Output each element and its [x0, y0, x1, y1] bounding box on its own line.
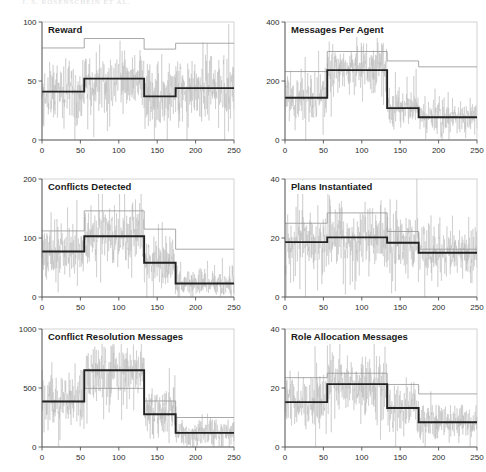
svg-text:200: 200	[23, 175, 37, 184]
svg-text:0: 0	[275, 443, 280, 452]
svg-text:200: 200	[189, 146, 203, 155]
svg-text:150: 150	[151, 453, 165, 462]
svg-text:0: 0	[40, 303, 45, 312]
svg-text:100: 100	[355, 453, 369, 462]
svg-text:200: 200	[432, 303, 446, 312]
svg-text:0: 0	[283, 146, 288, 155]
svg-text:0: 0	[40, 453, 45, 462]
svg-text:0: 0	[32, 136, 37, 145]
page-running-header: J. S. ROSENSCHEIN ET AL.	[22, 0, 222, 7]
svg-text:20: 20	[271, 384, 280, 393]
svg-text:150: 150	[151, 303, 165, 312]
svg-text:40: 40	[271, 175, 280, 184]
svg-text:100: 100	[355, 303, 369, 312]
svg-text:50: 50	[319, 146, 328, 155]
svg-text:Reward: Reward	[48, 24, 83, 35]
svg-text:150: 150	[394, 146, 408, 155]
svg-text:1000: 1000	[19, 325, 37, 334]
svg-text:150: 150	[394, 453, 408, 462]
svg-text:250: 250	[227, 146, 241, 155]
svg-text:100: 100	[355, 146, 369, 155]
svg-text:250: 250	[227, 453, 241, 462]
svg-text:50: 50	[76, 146, 85, 155]
chart-panel-messages-per-agent: 0200400050100150200250Messages Per Agent	[243, 8, 486, 165]
svg-text:200: 200	[266, 77, 280, 86]
figure-panel-grid: J. S. ROSENSCHEIN ET AL. 050100050100150…	[0, 0, 486, 472]
svg-text:Messages Per Agent: Messages Per Agent	[291, 24, 384, 35]
svg-text:250: 250	[470, 303, 484, 312]
svg-text:100: 100	[112, 453, 126, 462]
svg-text:200: 200	[432, 453, 446, 462]
svg-text:Role Allocation Messages: Role Allocation Messages	[291, 331, 408, 342]
chart-panel-role-allocation-messages: 02040050100150200250Role Allocation Mess…	[243, 315, 486, 472]
svg-text:50: 50	[76, 303, 85, 312]
svg-text:150: 150	[151, 146, 165, 155]
svg-text:100: 100	[23, 234, 37, 243]
svg-text:Conflict Resolution Messages: Conflict Resolution Messages	[48, 331, 183, 342]
svg-text:40: 40	[271, 325, 280, 334]
svg-text:0: 0	[283, 453, 288, 462]
svg-text:500: 500	[23, 384, 37, 393]
svg-text:50: 50	[28, 77, 37, 86]
svg-text:100: 100	[112, 303, 126, 312]
svg-text:0: 0	[283, 303, 288, 312]
svg-text:0: 0	[275, 293, 280, 302]
svg-text:250: 250	[470, 146, 484, 155]
chart-panel-conflict-resolution-messages: 05001000050100150200250Conflict Resoluti…	[0, 315, 243, 472]
svg-text:250: 250	[470, 453, 484, 462]
svg-text:250: 250	[227, 303, 241, 312]
svg-text:20: 20	[271, 234, 280, 243]
svg-text:200: 200	[189, 303, 203, 312]
svg-text:50: 50	[319, 453, 328, 462]
svg-text:Plans Instantiated: Plans Instantiated	[291, 181, 372, 192]
svg-text:0: 0	[275, 136, 280, 145]
svg-text:100: 100	[112, 146, 126, 155]
svg-text:0: 0	[40, 146, 45, 155]
svg-text:400: 400	[266, 18, 280, 27]
svg-text:100: 100	[23, 18, 37, 27]
svg-text:0: 0	[32, 293, 37, 302]
svg-text:50: 50	[76, 453, 85, 462]
svg-text:150: 150	[394, 303, 408, 312]
svg-text:Conflicts Detected: Conflicts Detected	[48, 181, 132, 192]
svg-text:0: 0	[32, 443, 37, 452]
svg-text:50: 50	[319, 303, 328, 312]
svg-text:200: 200	[189, 453, 203, 462]
chart-panel-plans-instantiated: 02040050100150200250Plans Instantiated	[243, 165, 486, 322]
chart-panel-reward: 050100050100150200250Reward	[0, 8, 243, 165]
svg-text:200: 200	[432, 146, 446, 155]
chart-panel-conflicts-detected: 0100200050100150200250Conflicts Detected	[0, 165, 243, 322]
